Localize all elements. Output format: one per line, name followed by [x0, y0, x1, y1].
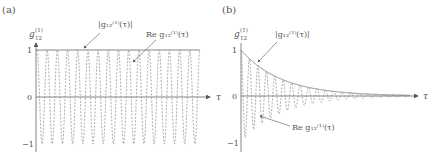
svg-text:(1): (1)	[240, 27, 248, 33]
panel-a-tick-neg1: −1	[22, 140, 34, 149]
panel-a-tick-0: 0	[27, 93, 32, 102]
panel-a-envelope-annotation: |g₁₂⁽¹⁾(τ)|	[98, 20, 133, 29]
panel-b-envelope-curve	[241, 50, 410, 95]
svg-text:12: 12	[35, 35, 42, 41]
panel-b-x-label: τ	[423, 91, 429, 101]
panel-b-real-annotation: Re g₁₂⁽¹⁾(τ)	[292, 123, 335, 132]
panel-b-y-axis-label: g 12 (1)	[234, 27, 248, 41]
svg-text:12: 12	[240, 35, 247, 41]
panel-b-tick-neg1: −1	[227, 139, 239, 148]
panel-b: (b) g 12 (1) τ 1 0 −1 |g₁₂⁽¹⁾(τ)| Re g₁₂…	[222, 4, 429, 152]
panel-a: (a) g 12 (1) τ 1 0 −1 |g₁₂⁽¹⁾(τ)| Re g₁₂…	[2, 4, 222, 152]
figure-canvas: (a) g 12 (1) τ 1 0 −1 |g₁₂⁽¹⁾(τ)| Re g₁₂…	[0, 0, 445, 160]
panel-a-x-label: τ	[216, 92, 222, 102]
panel-b-envelope-annotation: |g₁₂⁽¹⁾(τ)|	[275, 30, 310, 39]
panel-a-real-annotation: Re g₁₂⁽¹⁾(τ)	[146, 30, 189, 39]
panel-a-y-axis-label: g 12 (1)	[29, 27, 43, 41]
panel-a-tick-1: 1	[27, 46, 32, 55]
panel-b-label: (b)	[222, 4, 236, 15]
panel-b-tick-0: 0	[232, 92, 237, 101]
panel-a-envelope-arrow	[84, 33, 100, 48]
panel-b-envelope-arrow	[258, 42, 277, 62]
svg-text:(1): (1)	[35, 27, 43, 33]
panel-b-real-arrow	[260, 116, 290, 126]
panel-a-label: (a)	[2, 4, 16, 15]
panel-a-real-arrow	[133, 40, 156, 62]
panel-b-tick-1: 1	[232, 46, 237, 55]
